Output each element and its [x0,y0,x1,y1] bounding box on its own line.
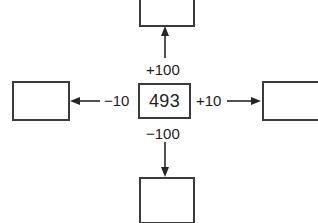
arrow-right-icon [227,97,261,105]
answer-box-top[interactable] [139,0,195,27]
arrow-left-icon [70,97,100,105]
center-number-box[interactable]: 493 [138,83,191,119]
answer-box-bottom[interactable] [139,177,195,223]
operation-label-left: −10 [104,93,129,108]
arrow-up-icon [161,26,169,58]
operation-label-up: +100 [146,62,180,77]
answer-box-right[interactable] [262,81,318,121]
arrow-down-icon [161,142,169,177]
diagram-canvas: 493 +100 −100 −10 +10 [0,0,318,223]
answer-box-left[interactable] [12,81,70,121]
center-number-value: 493 [149,92,180,110]
operation-label-down: −100 [146,126,180,141]
operation-label-right: +10 [196,93,221,108]
